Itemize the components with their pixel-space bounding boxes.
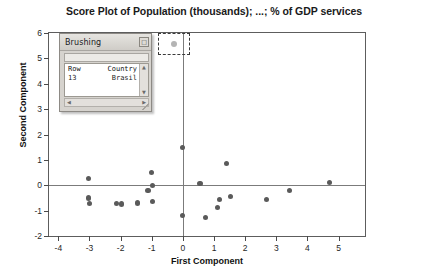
y-axis-tick <box>44 211 49 212</box>
x-axis-tick <box>121 236 122 241</box>
scatter-point[interactable] <box>86 195 91 200</box>
x-axis-tick-label: 5 <box>336 243 341 253</box>
vertical-zero-reference-line <box>183 33 184 236</box>
horizontal-zero-reference-line <box>49 185 365 186</box>
brushing-table-header: RowCountry <box>68 65 137 74</box>
brushing-window[interactable]: Brushing □ RowCountry13Brasil ▲ ▼ ◀ ▶ <box>59 33 152 112</box>
brushing-column-header: Country <box>94 65 137 74</box>
scatter-point[interactable] <box>224 161 229 166</box>
y-axis-tick <box>44 135 49 136</box>
x-axis-tick-label: 0 <box>180 243 185 253</box>
y-axis-tick-label: 5 <box>37 53 42 63</box>
y-axis-tick-label: -2 <box>34 231 42 241</box>
brushing-toolbar-strip <box>64 53 149 62</box>
x-axis-tick <box>339 236 340 241</box>
brushing-window-title: Brushing <box>65 38 139 47</box>
scatter-point[interactable] <box>197 181 202 186</box>
x-axis-tick-label: 3 <box>274 243 279 253</box>
scatter-point[interactable] <box>135 200 140 205</box>
y-axis-tick <box>44 185 49 186</box>
scatter-point[interactable] <box>217 197 222 202</box>
x-axis-tick <box>152 236 153 241</box>
x-axis-tick-label: 1 <box>212 243 217 253</box>
y-axis-tick-label: 3 <box>37 104 42 114</box>
y-axis-tick-label: 2 <box>37 130 42 140</box>
brushing-cell-country: Brasil <box>94 74 137 83</box>
brushed-data-point[interactable] <box>171 41 177 47</box>
scroll-down-icon[interactable]: ▼ <box>140 89 148 96</box>
y-axis-tick-label: 0 <box>37 180 42 190</box>
scatter-point[interactable] <box>150 199 155 204</box>
x-axis-tick-label: 4 <box>305 243 310 253</box>
x-axis-tick <box>307 236 308 241</box>
scatter-point[interactable] <box>287 188 292 193</box>
scroll-left-icon[interactable]: ◀ <box>67 99 71 106</box>
scatter-point[interactable] <box>180 145 185 150</box>
x-axis-title: First Component <box>48 256 366 266</box>
brushing-table[interactable]: RowCountry13Brasil ▲ ▼ <box>64 63 149 97</box>
scatter-point[interactable] <box>215 205 220 210</box>
scatter-point[interactable] <box>264 197 269 202</box>
scatter-point[interactable] <box>119 201 124 206</box>
brushing-column-header: Row <box>68 65 94 74</box>
horizontal-scrollbar[interactable]: ◀ ▶ <box>64 98 149 107</box>
y-axis-tick <box>44 109 49 110</box>
y-axis-tick-label: 1 <box>37 155 42 165</box>
x-axis-tick <box>245 236 246 241</box>
y-axis-tick-label: 6 <box>37 28 42 38</box>
page-title: Score Plot of Population (thousands); ..… <box>0 5 428 17</box>
scroll-up-icon[interactable]: ▲ <box>140 64 148 71</box>
x-axis-tick <box>183 236 184 241</box>
y-axis-tick <box>44 33 49 34</box>
close-icon[interactable]: □ <box>139 37 149 47</box>
x-axis-tick <box>89 236 90 241</box>
brushing-cell-row: 13 <box>68 74 94 83</box>
scatter-point[interactable] <box>149 170 154 175</box>
scatter-point[interactable] <box>327 180 332 185</box>
scatter-point[interactable] <box>150 183 155 188</box>
brushing-table-body: RowCountry13Brasil <box>65 64 139 96</box>
scatter-point[interactable] <box>203 215 208 220</box>
x-axis-tick-label: 2 <box>243 243 248 253</box>
table-row[interactable]: 13Brasil <box>68 74 137 83</box>
x-axis-tick <box>214 236 215 241</box>
x-axis-tick-label: -3 <box>86 243 94 253</box>
x-axis-tick <box>58 236 59 241</box>
y-axis-tick-label: 4 <box>37 79 42 89</box>
score-plot-screenshot: Score Plot of Population (thousands); ..… <box>0 0 428 278</box>
scatter-point[interactable] <box>180 213 185 218</box>
scatter-point[interactable] <box>228 194 233 199</box>
vertical-scrollbar[interactable]: ▲ ▼ <box>139 64 148 96</box>
x-axis-tick-label: -2 <box>117 243 125 253</box>
scatter-point[interactable] <box>145 188 150 193</box>
x-axis-tick-label: -4 <box>55 243 63 253</box>
y-axis-tick <box>44 160 49 161</box>
y-axis-title: Second Component <box>18 30 28 180</box>
scatter-point[interactable] <box>86 176 91 181</box>
resize-grip-icon[interactable] <box>142 103 149 110</box>
y-axis-tick <box>44 84 49 85</box>
scatter-point[interactable] <box>87 201 92 206</box>
brushing-window-titlebar[interactable]: Brushing □ <box>60 34 151 51</box>
y-axis-tick <box>44 58 49 59</box>
y-axis-tick <box>44 236 49 237</box>
x-axis-tick-label: -1 <box>148 243 156 253</box>
brush-selection-rectangle[interactable] <box>158 33 190 55</box>
y-axis-tick-label: -1 <box>34 206 42 216</box>
x-axis-tick <box>276 236 277 241</box>
